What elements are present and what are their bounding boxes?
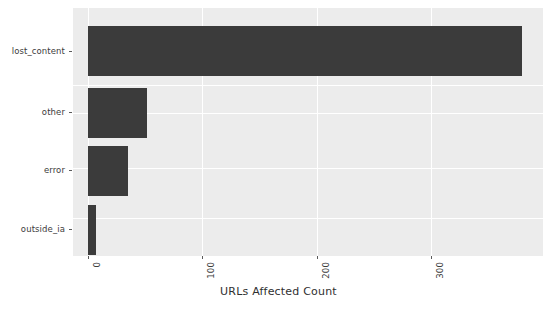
y-tick-label-error: error (0, 165, 65, 175)
y-tick-mark-error (69, 170, 72, 171)
y-tick-mark-lost_content (69, 51, 72, 52)
x-tick-label-100: 100 (206, 262, 216, 279)
x-tick-mark-0 (88, 256, 89, 259)
gridline-horizontal-3 (73, 168, 543, 169)
y-tick-label-other: other (0, 107, 65, 117)
bar-outside_ia (88, 205, 96, 255)
plot-area (73, 8, 543, 256)
bar-error (88, 146, 128, 196)
x-tick-mark-200 (317, 256, 318, 259)
y-tick-label-lost_content: lost_content (0, 46, 65, 56)
y-tick-mark-other (69, 112, 72, 113)
x-tick-label-300: 300 (435, 262, 445, 279)
y-tick-label-outside_ia: outside_ia (0, 224, 65, 234)
bar-other (88, 88, 147, 138)
bar-lost_content (88, 26, 522, 76)
x-tick-label-200: 200 (321, 262, 331, 279)
x-tick-label-0: 0 (92, 262, 102, 268)
x-tick-mark-100 (202, 256, 203, 259)
y-tick-mark-outside_ia (69, 229, 72, 230)
x-axis-title: URLs Affected Count (0, 285, 557, 298)
gridline-horizontal-1 (73, 85, 543, 86)
x-tick-mark-300 (431, 256, 432, 259)
gridline-horizontal-4 (73, 218, 543, 219)
bar-chart-figure: lost_content other error outside_ia 0 10… (0, 0, 557, 309)
